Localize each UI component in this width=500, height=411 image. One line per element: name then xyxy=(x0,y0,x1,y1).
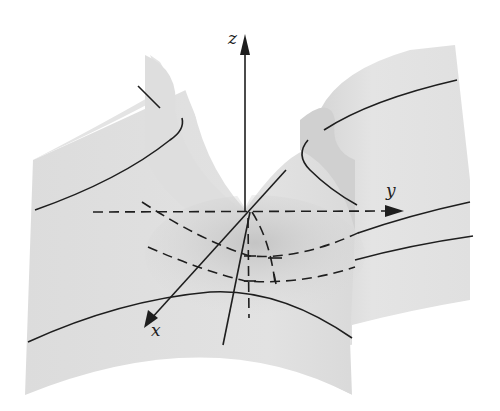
diagram-svg xyxy=(0,0,500,411)
z-axis-arrowhead xyxy=(240,34,250,55)
z-axis-label: z xyxy=(228,30,237,47)
saddle-surface xyxy=(25,45,500,411)
x-axis-label: x xyxy=(151,322,161,339)
y-axis-label: y xyxy=(386,182,396,199)
saddle-diagram: z y x xyxy=(0,0,500,411)
surface-shading xyxy=(145,195,365,315)
